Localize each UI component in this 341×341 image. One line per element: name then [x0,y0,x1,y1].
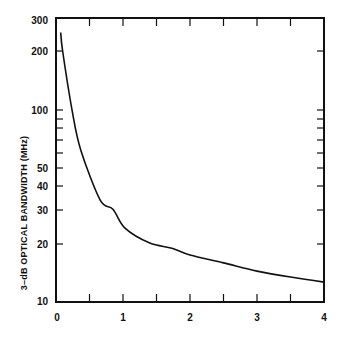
x-tick-3: 3 [254,312,260,323]
y-tick-200: 200 [31,46,48,57]
x-tick-labels: 0 1 2 3 4 [54,312,327,323]
y-axis-title: 3–dB OPTICAL BANDWIDTH (MHz) [19,136,29,290]
x-tick-1: 1 [120,312,126,323]
x-tick-4: 4 [321,312,327,323]
y-axis-ticks-right [317,51,324,244]
y-axis-ticks-left [56,51,63,244]
y-tick-100: 100 [31,105,48,116]
bandwidth-chart: 300 200 100 50 40 30 20 10 0 1 2 3 4 3–d… [0,0,341,341]
x-axis-ticks-top [90,18,291,26]
y-tick-40: 40 [37,181,49,192]
x-tick-0: 0 [54,312,60,323]
y-tick-50: 50 [37,163,49,174]
bandwidth-curve [61,33,324,283]
y-tick-30: 30 [37,205,49,216]
y-tick-10: 10 [37,296,49,307]
plot-frame [56,18,324,302]
y-tick-labels: 300 200 100 50 40 30 20 10 [31,15,48,307]
y-tick-20: 20 [37,239,49,250]
x-axis-ticks-bottom [90,294,291,302]
x-tick-2: 2 [187,312,193,323]
y-tick-300: 300 [31,15,48,26]
